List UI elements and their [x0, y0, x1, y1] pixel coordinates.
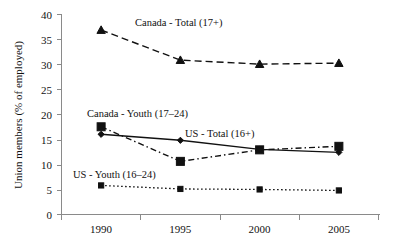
- data-point: [257, 187, 262, 192]
- y-tick-label-15: 15: [41, 134, 53, 146]
- y-axis-title: Union members (% of employed): [12, 41, 25, 189]
- x-tick-label-1990: 1990: [90, 223, 113, 235]
- y-tick-label-0: 0: [47, 209, 53, 221]
- y-tick-label-5: 5: [47, 184, 53, 196]
- chart-container: 40 35 30 25 20 15 10 5 0 Union members (…: [0, 0, 401, 252]
- data-point: [176, 157, 184, 165]
- union-membership-line-chart: 40 35 30 25 20 15 10 5 0 Union members (…: [0, 0, 401, 252]
- x-tick-label-2005: 2005: [328, 223, 351, 235]
- y-tick-label-40: 40: [41, 9, 53, 21]
- data-point: [336, 188, 341, 193]
- y-tick-label-25: 25: [41, 84, 53, 96]
- data-point: [97, 123, 105, 131]
- x-tick-label-1995: 1995: [169, 223, 192, 235]
- y-tick-label-10: 10: [41, 159, 53, 171]
- annotation-canada-total: Canada - Total (17+): [135, 17, 223, 29]
- annotation-us-youth: US - Youth (16–24): [73, 169, 156, 181]
- annotation-canada-youth: Canada - Youth (17–24): [87, 108, 188, 120]
- annotation-us-total: US - Total (16+): [185, 128, 255, 140]
- y-tick-label-30: 30: [41, 59, 53, 71]
- y-tick-label-35: 35: [41, 34, 53, 46]
- data-point: [178, 186, 183, 191]
- data-point: [99, 183, 104, 188]
- x-tick-label-2000: 2000: [249, 223, 272, 235]
- y-tick-label-20: 20: [41, 109, 53, 121]
